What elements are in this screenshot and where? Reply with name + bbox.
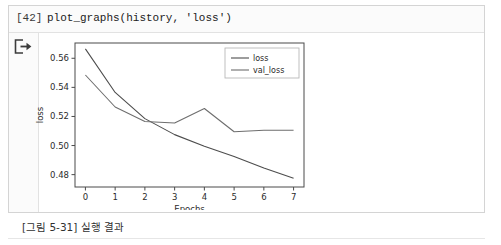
cell-code-text[interactable]: plot_graphs(history, 'loss') xyxy=(47,12,232,24)
figure-caption: [그림 5-31] 실행 결과 xyxy=(22,219,124,234)
x-tick-label: 7 xyxy=(291,192,296,202)
x-tick-label: 2 xyxy=(142,192,147,202)
x-axis-label: Epochs xyxy=(174,204,205,210)
x-tick-label: 4 xyxy=(202,192,207,202)
x-tick-label: 5 xyxy=(231,192,236,202)
series-line-val_loss xyxy=(85,75,293,132)
legend-label-loss: loss xyxy=(253,54,268,63)
loss-chart-svg: 012345670.480.500.520.540.56Epochslosslo… xyxy=(27,35,327,210)
x-tick-label: 3 xyxy=(172,192,177,202)
y-tick-label: 0.56 xyxy=(50,53,69,63)
y-tick-label: 0.48 xyxy=(50,170,69,180)
x-tick-label: 1 xyxy=(112,192,117,202)
legend-label-val_loss: val_loss xyxy=(253,66,284,75)
notebook-cell: [42] plot_graphs(history, 'loss') 012345… xyxy=(8,5,485,213)
loss-chart-figure: 012345670.480.500.520.540.56Epochslosslo… xyxy=(27,35,327,210)
x-tick-label: 0 xyxy=(83,192,88,202)
page-divider xyxy=(8,238,485,239)
y-axis-label: loss xyxy=(35,106,45,123)
cell-output-row: 012345670.480.500.520.540.56Epochslosslo… xyxy=(9,33,484,212)
x-tick-label: 6 xyxy=(261,192,266,202)
y-tick-label: 0.54 xyxy=(50,82,69,92)
cell-prompt-label: [42] xyxy=(16,12,42,24)
y-tick-label: 0.50 xyxy=(50,141,69,151)
screenshot-root: [42] plot_graphs(history, 'loss') 012345… xyxy=(0,0,501,245)
cell-input-row[interactable]: [42] plot_graphs(history, 'loss') xyxy=(9,6,484,33)
y-tick-label: 0.52 xyxy=(50,111,69,121)
